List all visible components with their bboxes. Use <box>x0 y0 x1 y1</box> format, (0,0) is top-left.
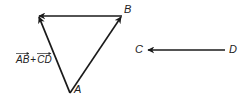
vector-ab-label: AB <box>16 55 29 65</box>
sum-left-text: AB <box>16 54 29 65</box>
vector-arrow-icon <box>37 52 51 55</box>
sum-label: AB + CD <box>16 55 52 65</box>
point-label-b: B <box>124 4 131 15</box>
vector-arrow-icon <box>16 52 29 55</box>
vector-ab <box>70 17 121 93</box>
point-label-c: C <box>135 44 143 55</box>
vector-cd-label: CD <box>37 55 51 65</box>
sum-right-text: CD <box>37 54 51 65</box>
point-label-d: D <box>229 44 237 55</box>
plus-sign: + <box>30 54 36 65</box>
point-label-a: A <box>74 84 81 95</box>
